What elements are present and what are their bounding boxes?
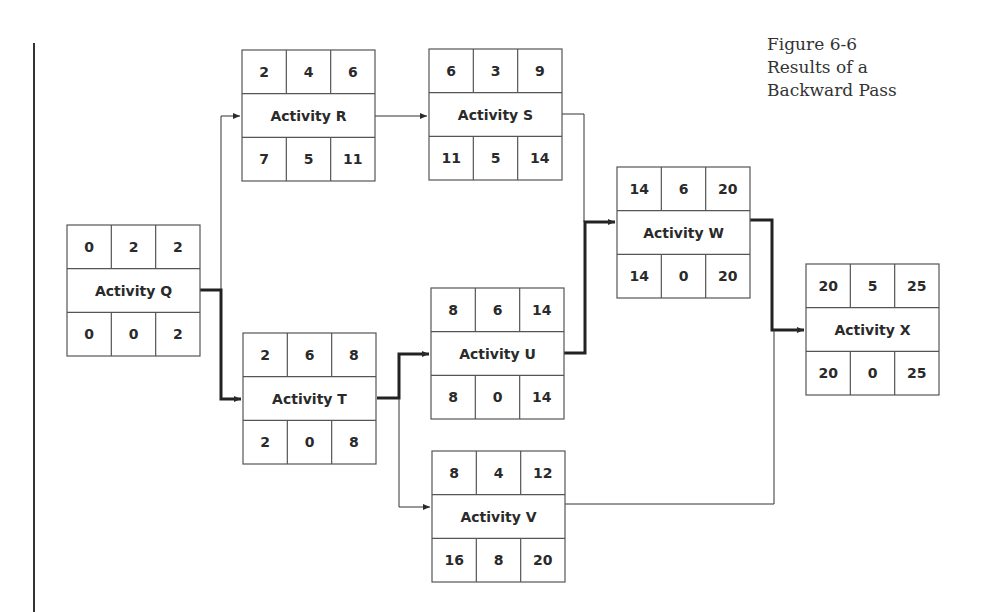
total-float-value: 0 bbox=[493, 389, 503, 405]
early-finish-value: 9 bbox=[535, 63, 545, 79]
early-finish-value: 8 bbox=[349, 347, 359, 363]
total-float-value: 5 bbox=[304, 151, 314, 167]
early-start-value: 2 bbox=[259, 64, 269, 80]
total-float-value: 0 bbox=[305, 434, 315, 450]
late-start-value: 11 bbox=[441, 150, 460, 166]
early-finish-value: 25 bbox=[907, 278, 926, 294]
edge-q-r bbox=[221, 116, 240, 290]
activity-name: Activity U bbox=[459, 346, 536, 362]
total-float-value: 8 bbox=[494, 552, 504, 568]
edge-t-v bbox=[399, 398, 430, 507]
early-finish-value: 6 bbox=[348, 64, 358, 80]
duration-value: 6 bbox=[493, 302, 503, 318]
early-finish-value: 20 bbox=[718, 181, 738, 197]
activity-node-w: 14620Activity W14020 bbox=[617, 167, 750, 298]
late-finish-value: 2 bbox=[173, 326, 183, 342]
late-finish-value: 14 bbox=[530, 150, 550, 166]
activity-name: Activity W bbox=[643, 225, 724, 241]
activity-name: Activity T bbox=[272, 391, 347, 407]
activity-node-s: 639Activity S11514 bbox=[429, 49, 562, 180]
activity-node-u: 8614Activity U8014 bbox=[431, 288, 564, 419]
total-float-value: 5 bbox=[491, 150, 501, 166]
activity-name: Activity R bbox=[270, 108, 346, 124]
late-finish-value: 11 bbox=[343, 151, 362, 167]
early-finish-value: 14 bbox=[532, 302, 552, 318]
activity-node-q: 022Activity Q002 bbox=[67, 225, 200, 356]
edge-w-x bbox=[750, 220, 804, 330]
network-diagram: 022Activity Q002246Activity R7511639Acti… bbox=[0, 0, 985, 612]
activity-name: Activity X bbox=[834, 322, 910, 338]
early-start-value: 20 bbox=[818, 278, 838, 294]
duration-value: 6 bbox=[305, 347, 315, 363]
edge-s-w bbox=[562, 114, 584, 222]
duration-value: 4 bbox=[494, 465, 504, 481]
late-start-value: 20 bbox=[818, 365, 838, 381]
late-start-value: 2 bbox=[260, 434, 270, 450]
early-start-value: 8 bbox=[448, 302, 458, 318]
early-start-value: 14 bbox=[629, 181, 649, 197]
activity-name: Activity Q bbox=[95, 283, 172, 299]
activity-node-x: 20525Activity X20025 bbox=[806, 264, 939, 395]
late-finish-value: 14 bbox=[532, 389, 552, 405]
duration-value: 2 bbox=[129, 239, 139, 255]
duration-value: 6 bbox=[679, 181, 689, 197]
late-finish-value: 25 bbox=[907, 365, 926, 381]
late-start-value: 8 bbox=[448, 389, 458, 405]
activity-name: Activity S bbox=[458, 107, 533, 123]
late-start-value: 0 bbox=[84, 326, 94, 342]
early-start-value: 0 bbox=[84, 239, 94, 255]
nodes-layer: 022Activity Q002246Activity R7511639Acti… bbox=[67, 49, 939, 582]
late-start-value: 7 bbox=[259, 151, 269, 167]
activity-node-t: 268Activity T208 bbox=[243, 333, 376, 464]
edge-v-x bbox=[565, 330, 774, 504]
activity-name: Activity V bbox=[460, 509, 536, 525]
late-start-value: 16 bbox=[444, 552, 463, 568]
late-start-value: 14 bbox=[629, 268, 649, 284]
duration-value: 4 bbox=[304, 64, 314, 80]
early-finish-value: 12 bbox=[533, 465, 552, 481]
late-finish-value: 20 bbox=[533, 552, 553, 568]
edge-t-u bbox=[377, 354, 429, 398]
edge-u-w bbox=[564, 222, 615, 353]
activity-node-r: 246Activity R7511 bbox=[242, 50, 375, 181]
total-float-value: 0 bbox=[129, 326, 139, 342]
early-start-value: 2 bbox=[260, 347, 270, 363]
early-finish-value: 2 bbox=[173, 239, 183, 255]
late-finish-value: 8 bbox=[349, 434, 359, 450]
early-start-value: 6 bbox=[446, 63, 456, 79]
late-finish-value: 20 bbox=[718, 268, 738, 284]
total-float-value: 0 bbox=[679, 268, 689, 284]
duration-value: 5 bbox=[868, 278, 878, 294]
total-float-value: 0 bbox=[868, 365, 878, 381]
duration-value: 3 bbox=[491, 63, 501, 79]
early-start-value: 8 bbox=[449, 465, 459, 481]
edge-q-t bbox=[200, 290, 241, 399]
activity-node-v: 8412Activity V16820 bbox=[432, 451, 565, 582]
